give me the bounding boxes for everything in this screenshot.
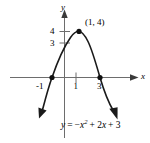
x-tick-label-3: 3 — [97, 82, 102, 91]
equation-plus-3: + 3 — [106, 120, 120, 130]
equation-equals: = — [65, 120, 74, 130]
parabola-figure: y x 4 3 -1 1 3 (1, 4) y=−x2+ 2x+ 3 — [0, 0, 150, 143]
y-tick-label-3: 3 — [50, 39, 55, 48]
x-axis-arrowhead — [130, 74, 139, 80]
y-tick-label-4: 4 — [50, 27, 55, 36]
vertex-point — [76, 29, 81, 34]
equation-plus-2: + 2 — [87, 120, 101, 130]
x-tick-label-neg1: -1 — [36, 82, 44, 91]
root-point-right — [97, 75, 102, 80]
root-point-left — [49, 75, 54, 80]
vertex-label: (1, 4) — [85, 18, 105, 27]
x-tick-label-1: 1 — [74, 82, 79, 91]
equation-label: y=−x2+ 2x+ 3 — [61, 121, 121, 131]
x-axis-label: x — [141, 72, 145, 81]
curve-arrowhead-right — [109, 107, 117, 119]
curve-arrowhead-left — [38, 107, 46, 118]
y-axis-label: y — [61, 3, 65, 12]
